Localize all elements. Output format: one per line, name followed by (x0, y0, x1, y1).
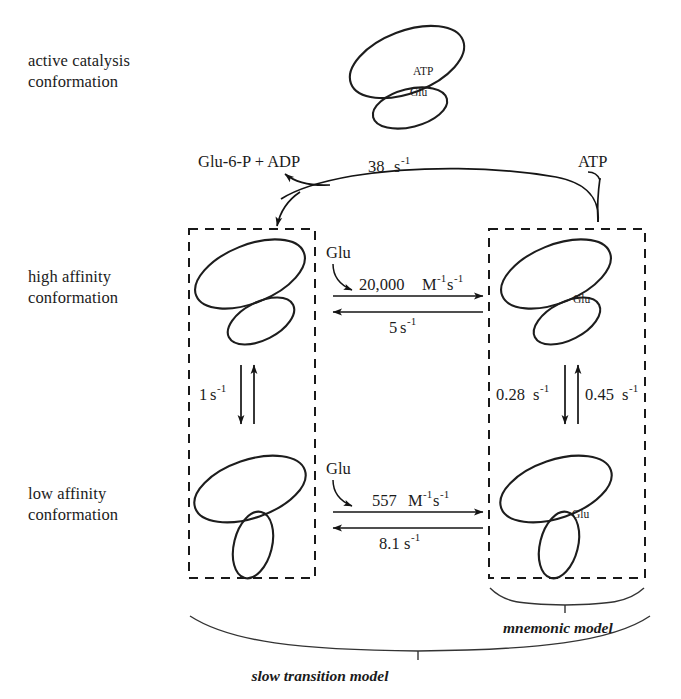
enzyme-large-lobe-ha-free (185, 225, 314, 322)
products-label: Glu-6-P + ADP (198, 152, 300, 171)
la-on-exp2: -1 (440, 488, 449, 500)
bound-down-value: 0.28 (496, 385, 525, 404)
la-off-unit: s (404, 534, 410, 553)
enzyme-low-affinity-free (186, 443, 315, 583)
high-affinity-binding-arrows: Glu 20,000 M -1 s -1 5 s -1 (326, 243, 483, 337)
bound-up-unit: s (622, 385, 628, 404)
products-release-arrow (285, 174, 330, 185)
enzyme-high-affinity-free (185, 225, 314, 354)
atp-label-top: ATP (413, 65, 433, 77)
low-affinity-on-rate: 557 M -1 s -1 (372, 488, 449, 510)
enzyme-high-affinity-bound: Glu (491, 225, 620, 354)
catalysis-rate-value: 38 (368, 157, 385, 176)
bound-enzyme-transition-arrows: 0.28 s -1 0.45 s -1 (496, 365, 638, 424)
glu-bound-label-high: Glu (573, 293, 591, 305)
catalysis-arc-group: Glu-6-P + ADP ATP 38 s -1 (198, 152, 607, 226)
ha-on-value: 20,000 (359, 275, 404, 294)
glu-feed-curve-low (333, 480, 352, 506)
enzyme-small-lobe-ha-free (220, 288, 301, 355)
ha-on-unit-s: s (447, 275, 453, 294)
slow-transition-model-label: slow transition model (251, 667, 390, 684)
ha-off-unit: s (400, 318, 406, 337)
free-transition-rate: 1 s -1 (199, 382, 226, 404)
enzyme-active-catalysis: ATP Glu (340, 12, 474, 136)
atp-substrate-label: ATP (578, 152, 607, 171)
bound-transition-up-rate: 0.45 s -1 (585, 382, 638, 404)
free-transition-exp: -1 (217, 382, 226, 394)
glu-label-top: Glu (410, 86, 428, 98)
figure-canvas: active catalysis conformation high affin… (0, 0, 681, 699)
la-on-unit-m: M (408, 491, 423, 510)
la-on-value: 557 (372, 491, 397, 510)
enzyme-large-lobe-active (340, 12, 474, 113)
free-enzyme-transition-arrows: 1 s -1 (199, 365, 254, 424)
kinetic-scheme-svg: ATP Glu Glu-6-P + ADP ATP 38 s -1 (0, 0, 681, 699)
free-transition-value: 1 (199, 385, 207, 404)
mnemonic-model-label: mnemonic model (503, 619, 613, 636)
bound-down-exp: -1 (540, 382, 549, 394)
ha-off-exp: -1 (407, 315, 416, 327)
la-off-exp: -1 (411, 531, 420, 543)
high-affinity-off-rate: 5 s -1 (389, 315, 416, 337)
enzyme-low-affinity-bound: Glu (492, 443, 621, 583)
glu-bound-label-low: Glu (572, 508, 590, 520)
high-affinity-on-rate: 20,000 M -1 s -1 (359, 272, 463, 294)
enzyme-small-lobe-ha-bound (526, 288, 607, 355)
bound-up-exp: -1 (629, 382, 638, 394)
bound-down-unit: s (533, 385, 539, 404)
catalysis-arc-path (281, 169, 598, 222)
bound-transition-down-rate: 0.28 s -1 (496, 382, 549, 404)
catalysis-rate-label: 38 s -1 (368, 154, 410, 176)
catalysis-rate-unit: s (394, 157, 400, 176)
la-on-unit-s: s (433, 491, 439, 510)
low-affinity-off-rate: 8.1 s -1 (379, 531, 420, 553)
ha-on-unit-m: M (422, 275, 437, 294)
enzyme-large-lobe-la-bound (492, 443, 621, 536)
ha-off-value: 5 (389, 318, 397, 337)
catalysis-rate-exponent: -1 (401, 154, 410, 166)
la-off-value: 8.1 (379, 534, 400, 553)
la-on-exp1: -1 (423, 488, 432, 500)
enzyme-large-lobe-la-free (186, 443, 315, 536)
glu-label-low-row: Glu (326, 459, 351, 478)
mnemonic-model-brace-group: mnemonic model (490, 588, 644, 636)
glu-feed-curve-high (333, 264, 352, 290)
arc-to-high-affinity-arrow (277, 192, 300, 226)
ha-on-exp1: -1 (437, 272, 446, 284)
mnemonic-model-brace (490, 588, 644, 605)
glu-label-high-row: Glu (326, 243, 351, 262)
ha-on-exp2: -1 (454, 272, 463, 284)
dashed-box-free-enzyme (189, 229, 315, 578)
free-transition-unit: s (210, 385, 216, 404)
bound-up-value: 0.45 (585, 385, 614, 404)
low-affinity-binding-arrows: Glu 557 M -1 s -1 8.1 s -1 (326, 459, 483, 553)
enzyme-large-lobe-ha-bound (491, 225, 620, 322)
atp-entry-link (588, 172, 600, 180)
